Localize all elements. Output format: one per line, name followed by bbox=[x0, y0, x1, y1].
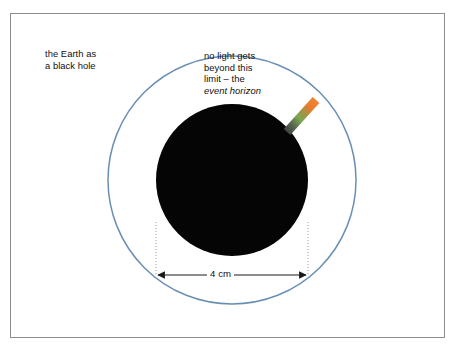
event-horizon-caption-label: no light getsbeyond thislimit – theevent… bbox=[204, 50, 261, 96]
event-horizon-term: event horizon bbox=[204, 85, 261, 96]
figure-root: the Earth as a black hole no light getsb… bbox=[0, 0, 455, 347]
horizon-caption-line-1: no light gets bbox=[204, 50, 255, 61]
earth-caption-label: the Earth as a black hole bbox=[45, 48, 96, 71]
black-hole-disc bbox=[156, 104, 308, 256]
light-streak-icon bbox=[287, 100, 316, 132]
horizon-caption-line-3: limit – the bbox=[204, 73, 245, 84]
dimension-value-label: 4 cm bbox=[207, 268, 234, 279]
horizon-caption-line-2: beyond this bbox=[204, 62, 253, 73]
